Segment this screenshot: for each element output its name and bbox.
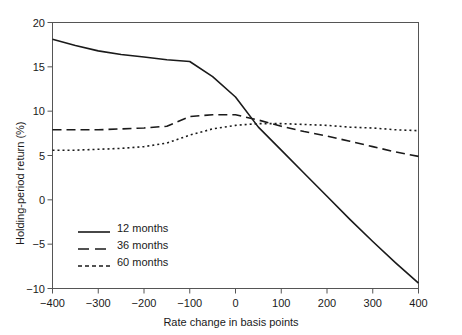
- legend-label: 12 months: [117, 222, 168, 234]
- legend-item: 36 months: [78, 236, 168, 253]
- x-tick-label: 200: [318, 298, 336, 309]
- legend-line-sample-solid: [78, 223, 110, 233]
- y-tick-label: 20: [18, 17, 45, 28]
- x-axis-title: Rate change in basis points: [0, 316, 462, 328]
- y-axis-ticks: [48, 23, 53, 289]
- x-tick-label: −200: [132, 298, 157, 309]
- x-tick-label: 400: [409, 298, 427, 309]
- series-line-60-months: [53, 124, 419, 151]
- x-tick-label: −100: [177, 298, 202, 309]
- legend-item: 12 months: [78, 219, 168, 236]
- legend-label: 60 months: [117, 256, 168, 268]
- x-tick-label: 300: [364, 298, 382, 309]
- legend-label: 36 months: [117, 239, 168, 251]
- legend-line-sample-dotted: [78, 257, 110, 267]
- x-tick-label: −400: [40, 298, 65, 309]
- x-tick-label: −300: [86, 298, 111, 309]
- chart-legend: 12 months36 months60 months: [78, 219, 168, 270]
- legend-item: 60 months: [78, 253, 168, 270]
- series-line-36-months: [53, 115, 419, 157]
- y-tick-label: 10: [18, 106, 45, 117]
- y-tick-label: −10: [18, 283, 45, 294]
- y-axis-title: Holding-period return (%): [14, 122, 26, 246]
- x-axis-ticks: [53, 289, 419, 294]
- legend-line-sample-dashed: [78, 240, 110, 250]
- holding-period-return-chart: 20151050−5−10 −400−300−200−1000100200300…: [0, 0, 462, 335]
- x-tick-label: 100: [272, 298, 290, 309]
- plot-area: [0, 0, 462, 335]
- x-tick-label: 0: [232, 298, 238, 309]
- y-tick-label: 15: [18, 61, 45, 72]
